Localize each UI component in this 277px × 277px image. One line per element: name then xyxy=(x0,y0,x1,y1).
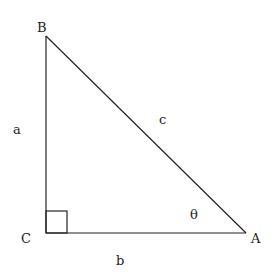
side-c-hypotenuse xyxy=(46,36,246,233)
side-b-label: b xyxy=(116,253,124,268)
vertex-a-label: A xyxy=(250,231,261,246)
right-angle-marker xyxy=(46,211,67,233)
angle-theta-label: θ xyxy=(190,207,198,222)
vertex-b-label: B xyxy=(37,20,47,35)
triangle-diagram: B C A a b c θ xyxy=(0,0,277,277)
side-a-label: a xyxy=(13,122,21,137)
side-c-label: c xyxy=(159,112,166,127)
vertex-c-label: C xyxy=(21,231,31,246)
